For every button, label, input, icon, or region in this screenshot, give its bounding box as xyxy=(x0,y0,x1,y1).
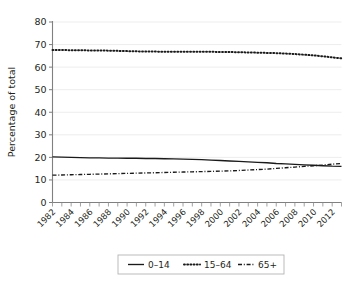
population-age-distribution-line-chart: 01020304050607080 1982198419861988199019… xyxy=(0,0,359,286)
y-tick-label: 20 xyxy=(34,152,46,163)
y-tick-label: 50 xyxy=(34,84,46,95)
y-tick-label: 40 xyxy=(34,107,46,118)
series-line-1564 xyxy=(53,50,342,58)
chart-container: 01020304050607080 1982198419861988199019… xyxy=(0,0,359,286)
x-tick-label: 1984 xyxy=(54,207,76,229)
x-tick-label: 1988 xyxy=(91,207,113,229)
y-tick-label: 70 xyxy=(34,39,46,50)
gridlines xyxy=(53,22,342,203)
y-tick-label: 30 xyxy=(34,129,46,140)
chart-legend: 0–1415–6465+ xyxy=(118,255,284,274)
x-tick-label: 2010 xyxy=(296,207,318,229)
legend-label: 65+ xyxy=(258,260,277,270)
x-tick-label: 2000 xyxy=(203,207,225,229)
y-tick-label: 10 xyxy=(34,174,46,185)
x-tick-label: 1996 xyxy=(166,207,188,229)
y-tick-label: 60 xyxy=(34,62,46,73)
y-tick-label: 0 xyxy=(40,197,46,208)
y-axis-tick-labels: 01020304050607080 xyxy=(34,16,46,208)
y-axis-title: Percentage of total xyxy=(6,67,17,157)
x-tick-label: 2008 xyxy=(277,207,299,229)
x-tick-label: 1982 xyxy=(35,207,57,229)
x-tick-label: 2006 xyxy=(259,207,281,229)
x-tick-label: 1998 xyxy=(184,207,206,229)
series-line-014 xyxy=(53,157,342,166)
x-tick-label: 2002 xyxy=(221,207,243,229)
x-axis-tick-marks xyxy=(53,203,342,207)
x-axis-tick-labels: 1982198419861988199019921994199619982000… xyxy=(35,207,337,229)
y-tick-label: 80 xyxy=(34,16,46,27)
x-tick-label: 1992 xyxy=(128,207,150,229)
legend-label: 15–64 xyxy=(204,260,232,270)
legend-label: 0–14 xyxy=(148,260,170,270)
x-tick-label: 2012 xyxy=(315,207,337,229)
x-tick-label: 1994 xyxy=(147,207,169,229)
series-line-65+ xyxy=(53,163,342,175)
x-tick-label: 1990 xyxy=(110,207,132,229)
x-tick-label: 2004 xyxy=(240,207,262,229)
x-tick-label: 1986 xyxy=(72,207,94,229)
